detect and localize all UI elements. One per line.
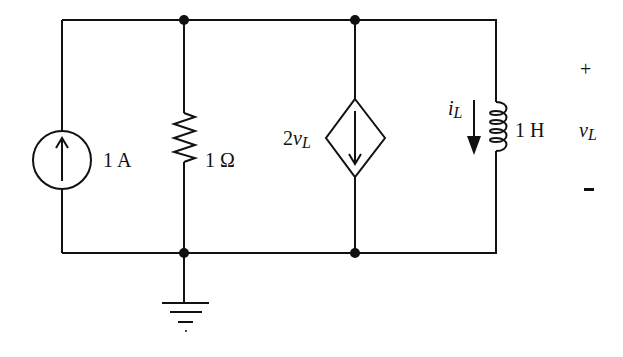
inductor-current-label: iL xyxy=(448,97,463,121)
junction-dots xyxy=(179,15,360,258)
inductor-label: 1 H xyxy=(515,119,544,141)
junction-dot-top-1 xyxy=(179,15,189,25)
inductor-coil-icon xyxy=(490,102,507,151)
current-source xyxy=(33,131,91,189)
ground-icon xyxy=(162,303,209,332)
circuit-diagram: 1 A 1 Ω 2vL 1 H iL + vL xyxy=(0,0,623,357)
resistor-zigzag-icon xyxy=(174,113,195,162)
resistor-label: 1 Ω xyxy=(205,149,235,171)
dependent-source-label: 2vL xyxy=(283,127,311,151)
junction-dot-bottom-2 xyxy=(350,248,360,258)
current-source-label: 1 A xyxy=(103,149,132,171)
dependent-source xyxy=(326,99,385,177)
junction-dot-top-2 xyxy=(350,15,360,25)
inductor-voltage-label: vL xyxy=(579,119,597,143)
junction-dot-bottom-1 xyxy=(179,248,189,258)
voltage-minus-sign xyxy=(584,188,594,191)
down-arrow-icon-filled xyxy=(467,136,481,155)
voltage-plus-sign: + xyxy=(580,58,591,80)
